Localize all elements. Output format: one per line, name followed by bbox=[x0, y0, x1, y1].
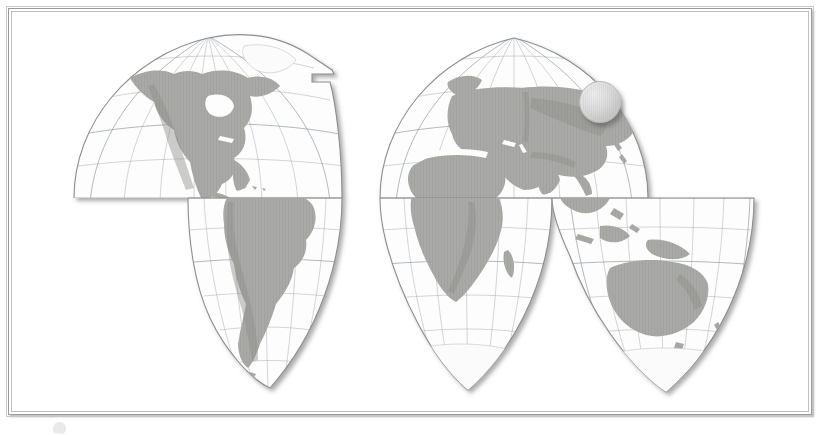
lobe-asia-australia bbox=[552, 190, 754, 392]
lobe-south-america bbox=[188, 190, 342, 388]
map-frame bbox=[8, 8, 812, 415]
lobe-americas bbox=[74, 35, 344, 202]
lobe-southern-africa bbox=[380, 196, 552, 390]
sphere-marker[interactable] bbox=[579, 81, 621, 123]
map-canvas[interactable] bbox=[12, 12, 816, 419]
figure-glyph bbox=[48, 419, 74, 435]
map-frame-inner-rule bbox=[11, 11, 809, 412]
world-map-graphic bbox=[12, 12, 812, 415]
